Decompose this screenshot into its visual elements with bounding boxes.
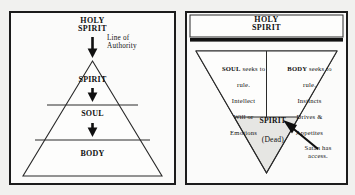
body-line-2: rule. <box>303 81 316 88</box>
line-of-authority-label: Line of Authority <box>107 34 173 51</box>
barrier-bar <box>190 38 343 42</box>
soul-line-2: rule. <box>237 81 250 88</box>
spirit-state: (Dead) <box>262 135 284 144</box>
soul-heading-rest: seeks to <box>241 65 266 72</box>
soul-line-3: Intellect <box>232 97 255 104</box>
right-holy-spirit-label: HOLY SPIRIT <box>187 16 346 33</box>
pyramid-tier-body-label: BODY <box>11 150 174 158</box>
diagram-root: HOLY SPIRIT Line of Authority SPIRIT SOU… <box>0 0 355 195</box>
pyramid-tier-spirit-label: SPIRIT <box>11 76 174 84</box>
body-line-3: Instincts <box>297 97 321 104</box>
pyramid-tier-soul-label: SOUL <box>11 110 174 118</box>
spirit-name: SPIRIT <box>260 116 287 125</box>
arrow-holy-spirit-down <box>88 37 98 58</box>
left-panel: HOLY SPIRIT Line of Authority SPIRIT SOU… <box>9 11 176 185</box>
right-panel: HOLY SPIRIT SOUL seeks to rule. Intellec… <box>185 11 348 185</box>
soul-heading: SOUL <box>222 65 241 72</box>
left-holy-spirit-label: HOLY SPIRIT <box>11 17 174 34</box>
satan-access-label: Satan has access. <box>291 144 345 160</box>
body-heading-rest: seeks to <box>307 65 332 72</box>
body-heading: BODY <box>287 65 307 72</box>
